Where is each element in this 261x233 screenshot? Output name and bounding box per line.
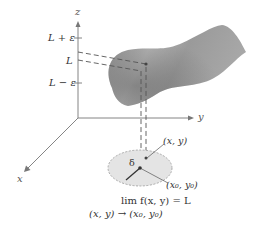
surface-point	[144, 62, 147, 65]
x-axis-label: x	[17, 174, 23, 184]
caption-limit: lim f(x, y) = L	[121, 196, 191, 206]
y-axis	[78, 116, 194, 121]
z-axis-label: z	[75, 7, 80, 17]
surface	[109, 25, 246, 106]
delta-label: δ	[129, 158, 135, 168]
tick-label-upper: L + ε	[48, 33, 75, 43]
x-axis	[24, 118, 78, 172]
center-label: (x₀, y₀)	[166, 180, 198, 190]
caption-approach: (x, y) → (x₀, y₀)	[89, 209, 163, 219]
tick-label-limit: L	[66, 56, 73, 66]
point-xy-label: (x, y)	[163, 136, 187, 146]
delta-disk	[108, 144, 172, 186]
tick-label-lower: L − ε	[49, 78, 76, 88]
z-axis	[76, 21, 81, 118]
y-axis-label: y	[198, 112, 204, 122]
